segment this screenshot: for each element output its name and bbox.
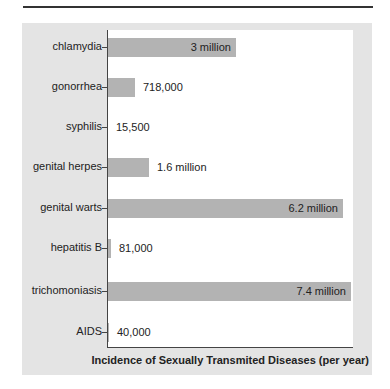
bar [108, 158, 149, 177]
bar-row: hepatitis B81,000 [0, 239, 390, 259]
value-label: 6.2 million [288, 202, 338, 214]
bar [108, 323, 109, 342]
y-tick [102, 127, 107, 128]
bar-row: gonorrhea718,000 [0, 78, 390, 98]
category-label: genital herpes [33, 160, 102, 172]
y-tick [102, 208, 107, 209]
bar-row: chlamydia3 million [0, 38, 390, 58]
bar-row: genital warts6.2 million [0, 199, 390, 219]
category-label: genital warts [40, 201, 102, 213]
value-label: 40,000 [117, 326, 151, 338]
value-label: 718,000 [143, 81, 183, 93]
category-label: chlamydia [52, 40, 102, 52]
category-label: hepatitis B [51, 241, 102, 253]
value-label: 3 million [191, 41, 231, 53]
category-label: trichomoniasis [32, 284, 102, 296]
category-label: gonorrhea [52, 80, 102, 92]
y-tick [102, 87, 107, 88]
y-tick [102, 47, 107, 48]
top-rule [23, 6, 373, 8]
y-tick [102, 167, 107, 168]
category-label: AIDS [76, 325, 102, 337]
bar-row: syphilis15,500 [0, 118, 390, 138]
value-label: 7.4 million [296, 285, 346, 297]
bar [108, 239, 111, 258]
bar-row: AIDS40,000 [0, 323, 390, 343]
y-tick [102, 332, 107, 333]
value-label: 15,500 [116, 121, 150, 133]
y-tick [102, 248, 107, 249]
bar-row: genital herpes1.6 million [0, 158, 390, 178]
value-label: 81,000 [119, 242, 153, 254]
y-tick [102, 291, 107, 292]
bar-row: trichomoniasis7.4 million [0, 282, 390, 302]
category-label: syphilis [66, 120, 102, 132]
value-label: 1.6 million [157, 161, 207, 173]
bar [108, 78, 135, 97]
